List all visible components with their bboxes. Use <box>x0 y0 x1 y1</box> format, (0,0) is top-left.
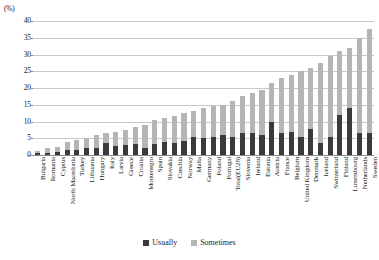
y-axis-tick-label: 35 <box>5 34 31 42</box>
bar-segment-sometimes <box>357 38 362 133</box>
chart-container: (%) 0510152025303540 BulgariaRomaniaCypr… <box>0 0 379 260</box>
x-axis-tick-label: Turkey <box>79 138 86 157</box>
x-axis-tick-label: Portugal <box>226 134 233 157</box>
bar-segment-sometimes <box>328 56 333 136</box>
bar-segment-sometimes <box>289 75 294 132</box>
x-axis-tick-label: Germany <box>206 132 213 157</box>
bar-segment-sometimes <box>279 78 284 133</box>
x-axis-tick-label: Romania <box>50 133 57 157</box>
x-axis-tick-label: Switzerland <box>333 125 340 157</box>
x-axis-tick-label: Hungary <box>99 134 106 157</box>
legend-label: Sometimes <box>200 238 236 247</box>
x-axis-tick-label: Montenegro <box>148 124 155 157</box>
legend-item: Usually <box>143 238 177 247</box>
y-axis-tick-label: 40 <box>5 17 31 25</box>
bar-segment-sometimes <box>367 29 372 133</box>
y-axis-tick-label: 25 <box>5 67 31 75</box>
x-axis-tick-label: United Kingdom <box>304 112 311 157</box>
legend-item: Sometimes <box>191 238 236 247</box>
x-axis-tick-label: Austria <box>274 137 281 157</box>
x-axis-tick-label: Ireland <box>255 138 262 157</box>
x-axis-tick-label: Norway <box>187 135 194 157</box>
x-axis-tick-label: Czechia <box>177 136 184 158</box>
x-axis-tick-label: Italy <box>109 145 116 157</box>
x-axis-labels: BulgariaRomaniaCyprusNorth MacedoniaTurk… <box>33 157 374 227</box>
bar-segment-sometimes <box>269 83 274 122</box>
x-axis-tick-label: Finland <box>343 137 350 157</box>
x-axis-tick-label: Croatia <box>138 137 145 157</box>
legend-swatch-icon <box>143 240 149 246</box>
x-axis-tick-label: North Macedonia <box>70 110 77 157</box>
y-axis-tick-label: 20 <box>5 84 31 92</box>
bar-segment-sometimes <box>298 71 303 136</box>
x-axis-tick-label: Slovenia <box>245 134 252 157</box>
x-axis-tick-label: Cyprus <box>60 138 67 157</box>
y-axis-tick-label: 10 <box>5 118 31 126</box>
bar-segment-sometimes <box>220 105 225 135</box>
x-axis-tick-label: Denmark <box>313 132 320 157</box>
y-axis-tick-label: 30 <box>5 51 31 59</box>
y-axis-tick-label: 15 <box>5 101 31 109</box>
x-axis-tick-label: Latvia <box>118 140 125 157</box>
x-axis-tick-label: Belgium <box>294 134 301 157</box>
x-axis-tick-label: Luxembourg <box>352 122 359 157</box>
bar-segment-sometimes <box>347 48 352 108</box>
bar-segment-sometimes <box>259 90 264 135</box>
x-axis-tick-label: Greece <box>128 138 135 157</box>
x-axis-tick-label: France <box>284 139 291 157</box>
y-axis: 0510152025303540 <box>0 21 31 155</box>
x-axis-tick-label: Slovakia <box>167 134 174 157</box>
x-axis-tick-label: Estonia <box>265 137 272 157</box>
x-axis-tick-label: Total(EU28) <box>235 123 242 157</box>
x-axis-tick-label: Lithuania <box>89 132 96 157</box>
x-axis-tick-label: Bulgaria <box>40 134 47 157</box>
bar-segment-sometimes <box>337 51 342 115</box>
legend-swatch-icon <box>191 240 197 246</box>
chart-legend: UsuallySometimes <box>0 238 379 247</box>
x-axis-tick-label: Iceland <box>323 137 330 157</box>
x-axis-tick-label: Poland <box>216 138 223 157</box>
legend-label: Usually <box>152 238 177 247</box>
y-axis-unit-label: (%) <box>4 4 15 13</box>
y-axis-tick-label: 5 <box>5 134 31 142</box>
bar-segment-sometimes <box>191 111 196 136</box>
x-axis-tick-label: Malta <box>196 141 203 157</box>
bar-segment-sometimes <box>250 93 255 133</box>
x-axis-tick-label: Spain <box>157 142 164 157</box>
x-axis-tick-label: Netherlands <box>362 125 369 157</box>
x-axis-tick-label: Sweden <box>372 136 379 157</box>
bars-layer <box>33 21 374 155</box>
